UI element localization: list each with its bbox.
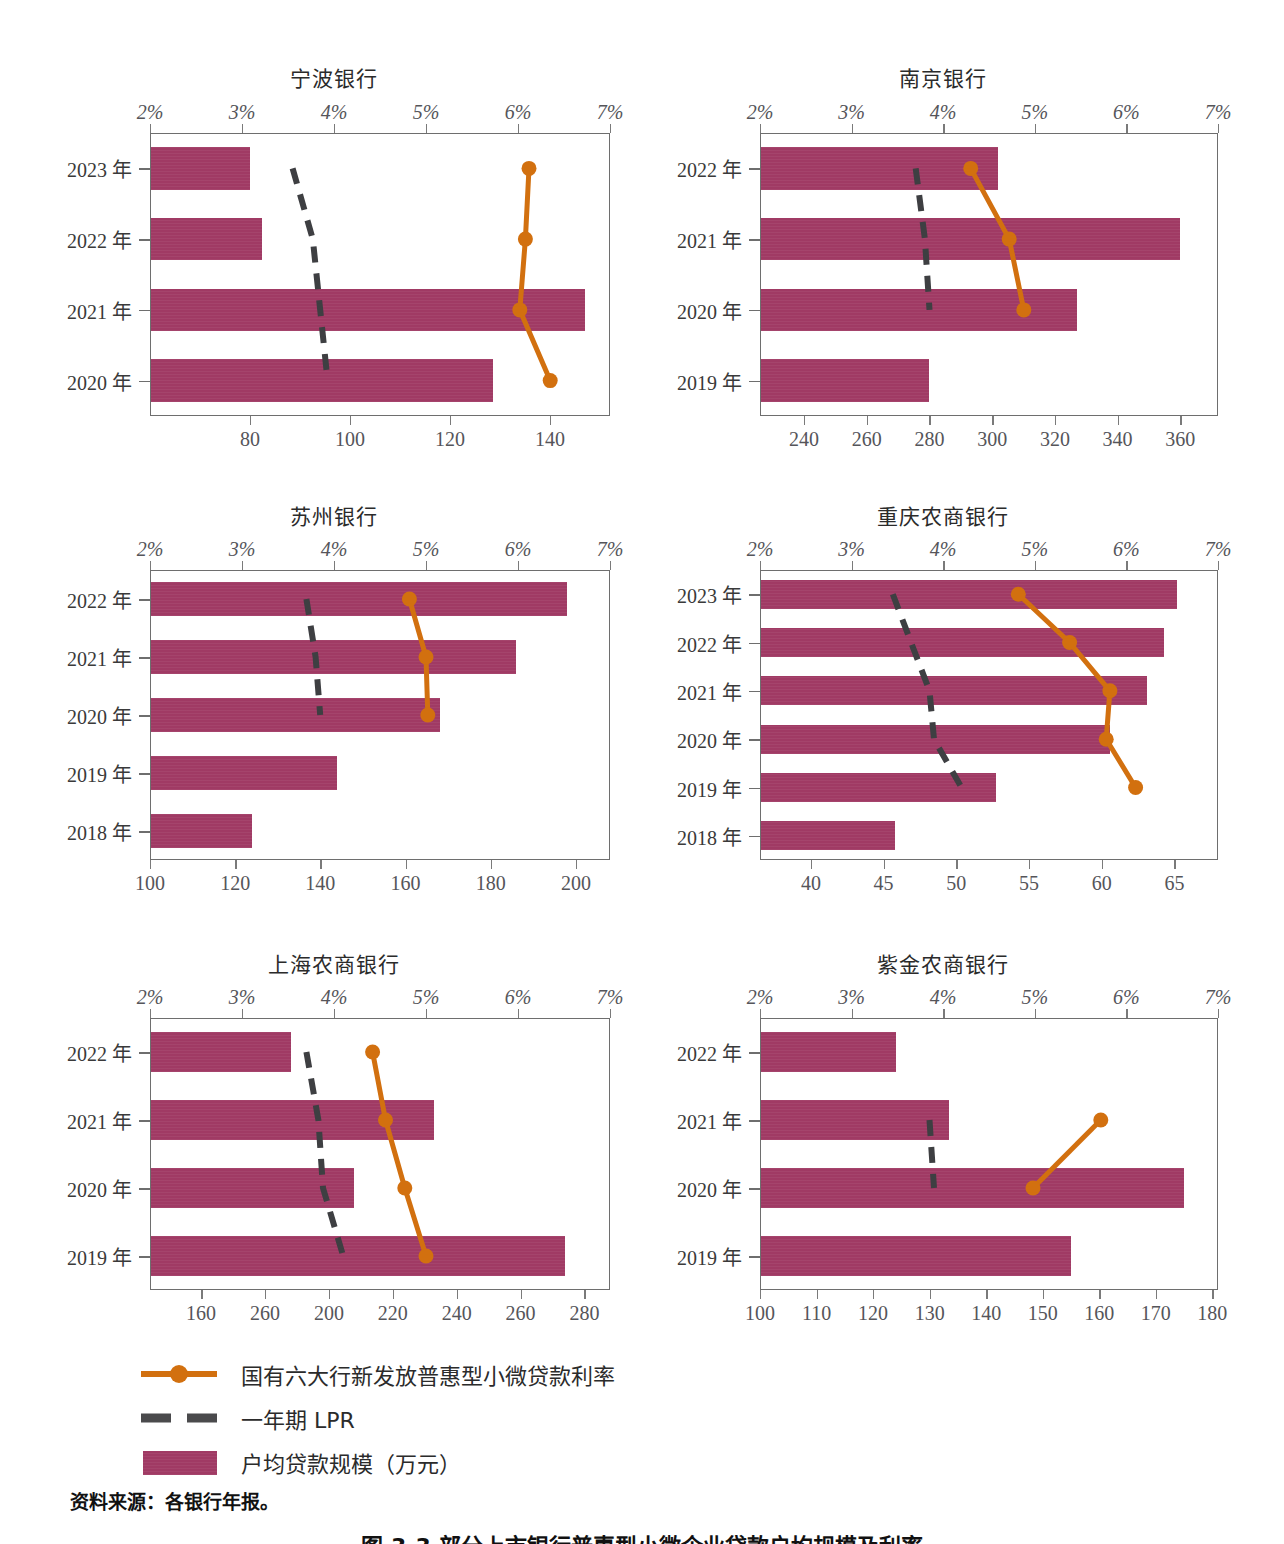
bar-swatch-icon: [133, 1440, 225, 1484]
line-marker-icon: [133, 1352, 225, 1396]
chart-grid: 宁波银行2%3%4%5%6%7%801001201402023 年2022 年2…: [0, 0, 1284, 1340]
legend-item-lpr: 一年期 LPR: [133, 1396, 753, 1440]
rate-marker: [1026, 1181, 1041, 1196]
figure-caption: 图 3-3 部分上市银行普惠型小微企业贷款户均规模及利率: [0, 1528, 1284, 1544]
legend-label-scale: 户均贷款规模（万元）: [241, 1446, 461, 1478]
chart-panel: 紫金农商银行2%3%4%5%6%7%1001101201301401501601…: [0, 0, 1284, 1340]
legend-label-rate: 国有六大行新发放普惠型小微贷款利率: [241, 1358, 615, 1390]
legend-item-rate: 国有六大行新发放普惠型小微贷款利率: [133, 1352, 753, 1396]
source-note: 资料来源：各银行年报。: [70, 1487, 279, 1514]
legend-label-lpr: 一年期 LPR: [241, 1402, 355, 1434]
line-series-overlay: [0, 0, 1284, 1340]
rate-marker: [1093, 1113, 1108, 1128]
legend: 国有六大行新发放普惠型小微贷款利率 一年期 LPR 户均贷款规模（万元）: [133, 1352, 753, 1484]
legend-item-scale: 户均贷款规模（万元）: [133, 1440, 753, 1484]
dashed-line-icon: [133, 1396, 225, 1440]
lpr-line: [930, 1120, 935, 1188]
rate-line: [1033, 1120, 1101, 1188]
